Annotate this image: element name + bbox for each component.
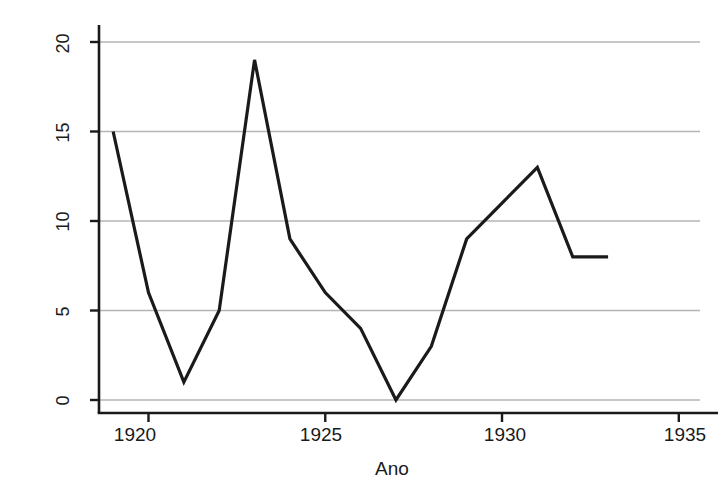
y-axis-title: Agitação — [0, 0, 44, 504]
x-tick-label-1920: 1920 — [95, 424, 175, 446]
y-tick-label-20: 20 — [53, 24, 74, 64]
chart-figure: Agitação 20 15 10 5 0 1920 1925 1930 193… — [0, 0, 727, 504]
y-tick-label-5: 5 — [53, 292, 74, 332]
x-axis-title: Ano — [99, 458, 685, 480]
y-tick-label-15: 15 — [53, 113, 74, 153]
x-tick-label-1935: 1935 — [645, 424, 725, 446]
y-tick-label-10: 10 — [53, 202, 74, 242]
data-line-agitacao — [113, 60, 608, 400]
gridlines — [99, 42, 700, 400]
x-tick-label-1930: 1930 — [465, 424, 545, 446]
y-tick-label-0: 0 — [53, 381, 74, 421]
x-tick-label-1925: 1925 — [281, 424, 361, 446]
axis-lines — [98, 25, 718, 413]
